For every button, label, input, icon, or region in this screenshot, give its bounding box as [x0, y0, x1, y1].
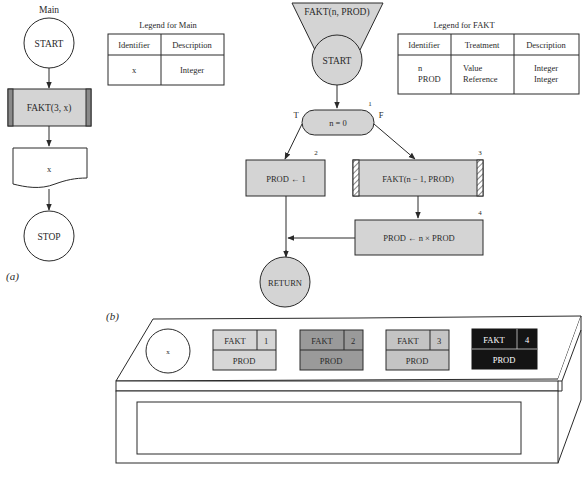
stack-variable-label: x: [166, 348, 170, 356]
stack-front-panel: [137, 402, 521, 454]
fakt-start-node: START: [312, 35, 362, 85]
main-start-node: START: [24, 18, 74, 68]
frame-2-level: 2: [351, 336, 355, 346]
recursive-call-node: FAKT(n − 1, PROD) 3: [353, 149, 483, 196]
recursive-call-number: 3: [478, 149, 482, 157]
multiply-node: PROD ← n × PROD 4: [355, 209, 483, 255]
assign-one-node: PROD ← 1 2: [246, 149, 325, 196]
part-a-label: (a): [6, 270, 19, 283]
legend-fakt-cell: Integer: [534, 74, 558, 84]
legend-fakt-cell: PROD: [418, 74, 441, 84]
false-branch-label: F: [379, 110, 384, 120]
frame-3-level: 3: [437, 336, 441, 346]
main-call-label: FAKT(3, x): [27, 103, 72, 114]
recursive-call-label: FAKT(n − 1, PROD): [382, 174, 454, 184]
legend-fakt: Legend for FAKT Identifier Treatment Des…: [398, 20, 579, 94]
legend-fakt-title: Legend for FAKT: [433, 20, 495, 30]
stack-frame-1: FAKT 1 PROD: [213, 330, 276, 370]
legend-main: Legend for Main Identifier Description x…: [108, 20, 224, 85]
main-stop-node: STOP: [24, 211, 74, 261]
frame-4-param: PROD: [493, 355, 516, 365]
decision-node: n = 0 1 T F: [293, 100, 383, 135]
main-call-node: FAKT(3, x): [8, 89, 91, 126]
true-branch-label: T: [293, 110, 299, 120]
subprogram-bar-left: [353, 160, 359, 196]
subprogram-bar-left: [8, 89, 13, 126]
return-label: RETURN: [268, 278, 302, 288]
main-title: Main: [39, 5, 59, 15]
frame-3-param: PROD: [406, 356, 429, 366]
legend-main-cell: Integer: [180, 65, 204, 75]
stack-frame-4: FAKT 4 PROD: [472, 329, 537, 369]
stack-frame-3: FAKT 3 PROD: [386, 330, 449, 370]
frame-1-param: PROD: [233, 356, 256, 366]
main-flowchart: Main START FAKT(3, x) x STOP: [8, 5, 91, 261]
return-node: RETURN: [260, 257, 310, 307]
fakt-start-label: START: [323, 56, 352, 66]
main-stop-label: STOP: [37, 232, 60, 242]
legend-fakt-cell: Integer: [534, 63, 558, 73]
main-start-label: START: [35, 39, 64, 49]
fakt-recursion-diagram: Main START FAKT(3, x) x STOP (a) Legend …: [0, 0, 586, 477]
frame-4-name: FAKT: [483, 335, 505, 345]
legend-fakt-header-identifier: Identifier: [408, 40, 440, 50]
stack-variable-x: x: [146, 329, 190, 373]
arrow-false-branch: [374, 124, 415, 159]
stack-frame-2: FAKT 2 PROD: [300, 330, 363, 370]
legend-main-title: Legend for Main: [139, 20, 197, 30]
frame-2-name: FAKT: [311, 336, 333, 346]
main-output-node: x: [13, 148, 87, 187]
legend-fakt-cell: Value: [463, 63, 483, 73]
legend-main-header-description: Description: [172, 40, 212, 50]
frame-1-level: 1: [264, 336, 268, 346]
arrow-true-branch: [285, 124, 302, 159]
decision-number: 1: [368, 100, 372, 108]
subprogram-bar-right: [86, 89, 91, 126]
legend-fakt-cell: Reference: [463, 74, 498, 84]
frame-1-name: FAKT: [224, 336, 246, 346]
subprogram-bar-right: [477, 160, 483, 196]
assign-one-label: PROD ← 1: [266, 174, 306, 184]
memory-stack-box: x FAKT 1 PROD FAKT 2 PROD FAKT 3 PROD: [116, 316, 586, 463]
multiply-label: PROD ← n × PROD: [383, 233, 454, 243]
assign-one-number: 2: [314, 149, 318, 157]
part-b-label: (b): [106, 310, 119, 323]
legend-fakt-header-treatment: Treatment: [465, 40, 500, 50]
legend-fakt-header-description: Description: [526, 40, 566, 50]
fakt-header-label: FAKT(n, PROD): [304, 7, 369, 18]
decision-label: n = 0: [329, 118, 347, 128]
legend-main-header-identifier: Identifier: [118, 40, 150, 50]
frame-3-name: FAKT: [397, 336, 419, 346]
frame-2-param: PROD: [320, 356, 343, 366]
multiply-number: 4: [478, 209, 482, 217]
